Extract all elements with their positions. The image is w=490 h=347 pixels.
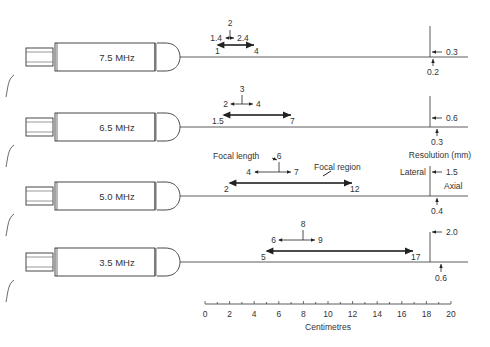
tick-label: 10: [323, 309, 333, 319]
tick-label: 0: [203, 309, 208, 319]
lateral-label: Lateral: [400, 167, 426, 177]
lateral-resolution: 1.5: [446, 167, 458, 177]
focal-length-min: 4: [246, 167, 251, 177]
axial-resolution: 0.2: [427, 67, 439, 77]
focal-region-start: 5: [261, 252, 266, 262]
focal-length-value: 2: [228, 18, 233, 28]
focal-region-start: 1.5: [212, 116, 224, 126]
focal-region-end: 12: [350, 184, 360, 194]
lateral-resolution: 2.0: [446, 227, 458, 237]
tick-label: 14: [372, 309, 382, 319]
tick-label: 12: [348, 309, 358, 319]
focal-length-min: 6: [271, 235, 276, 245]
focal-region-start: 2: [224, 184, 229, 194]
focal-region-start: 1: [215, 46, 220, 56]
focal-length-max: 4: [256, 99, 261, 109]
focal-length-value: 6: [277, 151, 282, 161]
probe-label: 7.5 MHz: [99, 52, 135, 63]
axial-resolution: 0.6: [435, 273, 447, 283]
focal-region-end: 4: [254, 46, 259, 56]
focal-length-annotation: Focal length: [213, 151, 260, 161]
tick-label: 18: [422, 309, 432, 319]
probe-3-5-mhz: 3.5 MHz 8 6 9 5 17 2.0 0.6: [6, 219, 468, 302]
focal-region-end: 7: [290, 116, 295, 126]
tick-label: 16: [397, 309, 407, 319]
tick-label: 6: [276, 309, 281, 319]
focal-region-end: 17: [411, 252, 421, 262]
focal-length-max: 7: [294, 167, 299, 177]
focal-length-max: 9: [318, 235, 323, 245]
tick-label: 2: [227, 309, 232, 319]
centimetre-scale: 0 2 4 6 8 10 12 14 16 18 20 Centimetres: [203, 301, 456, 332]
axial-resolution: 0.3: [431, 137, 443, 147]
focal-length-min: 1.4: [210, 33, 222, 43]
focal-region-annotation: Focal region: [314, 162, 361, 172]
tick-label: 8: [301, 309, 306, 319]
probe-7-5-mhz: 7.5 MHz 2 1.4 2.4 1 4 0.3 0.2: [6, 18, 468, 97]
axial-label: Axial: [444, 181, 463, 191]
axis-label: Centimetres: [305, 322, 351, 332]
axial-resolution: 0.4: [431, 206, 443, 216]
diagram: 7.5 MHz 2 1.4 2.4 1 4 0.3 0.2 6.5 MHz 3 …: [0, 0, 490, 347]
lateral-resolution: 0.3: [446, 47, 458, 57]
focal-length-max: 2.4: [237, 33, 249, 43]
probe-label: 3.5 MHz: [99, 257, 135, 268]
resolution-heading: Resolution (mm): [409, 150, 472, 160]
focal-length-value: 8: [301, 219, 306, 229]
lateral-resolution: 0.6: [446, 113, 458, 123]
probe-5-0-mhz: 5.0 MHz Focal length 6 4 7 Focal region …: [6, 151, 468, 236]
focal-length-min: 2: [223, 99, 228, 109]
probe-label: 5.0 MHz: [99, 191, 135, 202]
focal-length-value: 3: [240, 84, 245, 94]
probe-label: 6.5 MHz: [99, 122, 135, 133]
tick-label: 20: [446, 309, 456, 319]
tick-label: 4: [252, 309, 257, 319]
